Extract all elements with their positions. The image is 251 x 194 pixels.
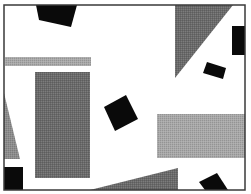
light-gray-stripe-texture — [5, 57, 91, 66]
right-edge-black-rect — [232, 26, 245, 55]
abstract-composition — [0, 0, 251, 194]
bottom-left-black-rect — [4, 167, 23, 190]
dark-gray-rect-texture — [35, 72, 90, 178]
right-light-gray-rect-texture — [157, 114, 245, 158]
